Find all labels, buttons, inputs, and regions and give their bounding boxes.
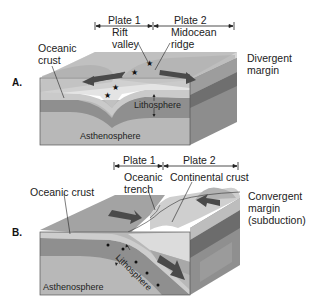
panel-b-margin-label-2: margin: [248, 202, 280, 214]
panel-a-midocean-ridge-label-2: ridge: [171, 38, 195, 50]
panel-a-rift-valley-label-2: valley: [112, 38, 140, 50]
panel-b-asthenosphere-label: Asthenosphere: [43, 282, 104, 292]
panel-b-convergent: Plate 1 Plate 2: [12, 154, 306, 295]
panel-b-trench-label-2: trench: [124, 183, 153, 195]
panel-b-plate1-label: Plate 1: [123, 154, 156, 166]
svg-text:★: ★: [104, 91, 111, 100]
panel-a-margin-label-2: margin: [247, 64, 279, 76]
panel-a-tag: A.: [12, 77, 22, 88]
panel-b-tag: B.: [12, 227, 22, 238]
panel-b-margin-label-3: (subduction): [248, 214, 306, 226]
panel-b-continental-crust-label: Continental crust: [170, 171, 249, 183]
panel-a-oceanic-crust-label-2: crust: [38, 54, 61, 66]
panel-a-divergent: Plate 1 Plate 2 ★ ★ ★ ★: [12, 14, 292, 145]
panel-b-oceanic-crust-label: Oceanic crust: [30, 186, 94, 198]
svg-text:★: ★: [112, 83, 119, 92]
panel-a-oceanic-crust-label-1: Oceanic: [38, 42, 77, 54]
panel-a-midocean-ridge-label-1: Midocean: [171, 26, 217, 38]
panel-a-asthenosphere-label: Asthenosphere: [80, 131, 141, 141]
panel-a-plate1-label: Plate 1: [108, 14, 141, 26]
plate-tectonics-diagram: Plate 1 Plate 2 ★ ★ ★ ★: [0, 0, 317, 299]
panel-b-margin-label-1: Convergent: [248, 190, 302, 202]
panel-a-plate2-label: Plate 2: [174, 14, 207, 26]
panel-b-oceanic-surface: [40, 195, 165, 235]
panel-a-lithosphere-label: Lithosphere: [134, 100, 181, 110]
panel-b-plate2-label: Plate 2: [183, 154, 216, 166]
panel-a-rift-valley-label-1: Rift: [112, 26, 128, 38]
panel-b-trench-label-1: Oceanic: [124, 171, 163, 183]
svg-text:★: ★: [131, 68, 138, 77]
panel-a-margin-label-1: Divergent: [247, 52, 292, 64]
